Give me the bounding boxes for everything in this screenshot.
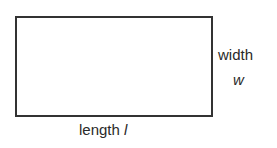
length-variable: l xyxy=(124,121,127,138)
length-label: length xyxy=(79,121,120,138)
width-label: width xyxy=(218,47,253,62)
rectangle-shape xyxy=(15,16,213,117)
width-variable: w xyxy=(233,72,244,87)
length-label-group: lengthl xyxy=(79,122,127,137)
